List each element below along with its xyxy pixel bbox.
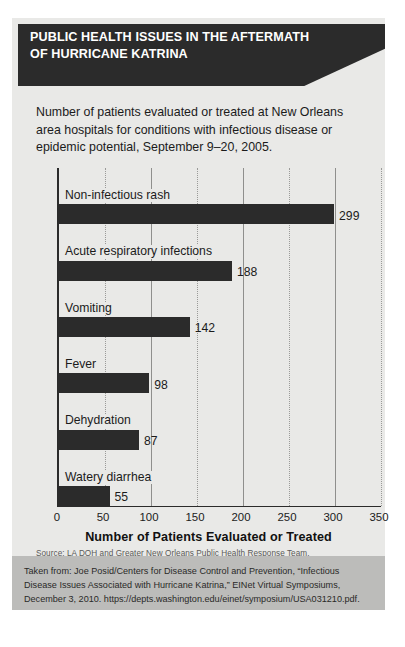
x-tick-label: 300	[323, 511, 342, 523]
x-axis-title: Number of Patients Evaluated or Treated	[36, 530, 381, 544]
bar-group: Non-infectious rash299	[59, 168, 381, 224]
bar	[59, 430, 139, 450]
x-tick-label: 50	[97, 511, 110, 523]
bar-category-label: Fever	[63, 358, 98, 371]
x-tick-label: 200	[231, 511, 250, 523]
bar-value-label: 87	[144, 434, 158, 449]
bar-category-label: Watery diarrhea	[63, 471, 153, 484]
bar-group: Dehydration87	[59, 393, 381, 449]
bar	[59, 373, 149, 393]
page-title: PUBLIC HEALTH ISSUES IN THE AFTERMATH OF…	[30, 29, 330, 63]
bar	[59, 261, 232, 281]
citation-text: Taken from: Joe Posid/Centers for Diseas…	[24, 564, 374, 606]
x-tick-label: 350	[369, 511, 388, 523]
bar	[59, 486, 110, 506]
bar-category-label: Non-infectious rash	[63, 189, 172, 202]
chart-subtitle: Number of patients evaluated or treated …	[36, 104, 366, 157]
gridline	[381, 168, 382, 506]
bar-group: Watery diarrhea55	[59, 450, 381, 506]
bar-category-label: Vomiting	[63, 302, 114, 315]
bar-category-label: Dehydration	[63, 414, 133, 427]
x-tick-label: 250	[277, 511, 296, 523]
plot-area: Non-infectious rash299Acute respiratory …	[57, 168, 381, 506]
bar-chart: Non-infectious rash299Acute respiratory …	[36, 168, 381, 508]
x-tick-label: 150	[185, 511, 204, 523]
citation-band: Taken from: Joe Posid/Centers for Diseas…	[12, 556, 385, 610]
bar-value-label: 142	[195, 321, 215, 336]
x-axis-line	[57, 506, 381, 507]
figure-card: PUBLIC HEALTH ISSUES IN THE AFTERMATH OF…	[12, 18, 385, 610]
x-tick-label: 0	[54, 511, 60, 523]
bar	[59, 204, 334, 224]
bar-value-label: 188	[237, 265, 257, 280]
bar-group: Acute respiratory infections188	[59, 224, 381, 280]
bar-category-label: Acute respiratory infections	[63, 245, 214, 258]
bar-group: Fever98	[59, 337, 381, 393]
bar	[59, 317, 190, 337]
x-tick-label: 100	[139, 511, 158, 523]
bar-group: Vomiting142	[59, 281, 381, 337]
bar-value-label: 299	[339, 209, 359, 224]
bar-value-label: 55	[115, 490, 129, 505]
bar-value-label: 98	[154, 378, 168, 393]
